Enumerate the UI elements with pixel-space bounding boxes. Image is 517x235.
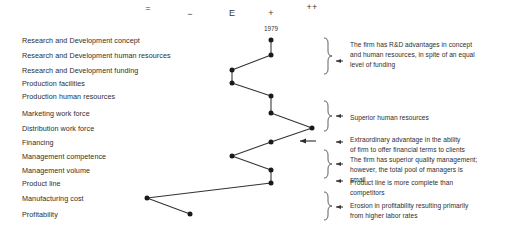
leader-arrowhead-profitability [336, 205, 341, 209]
annotation-rd: The firm has R&D advantages in concept a… [350, 40, 515, 70]
data-point-product-line [269, 181, 274, 186]
leader-arrowhead-rd [336, 59, 341, 63]
profile-polyline [147, 40, 312, 214]
data-point-marketing-work-force [269, 111, 274, 116]
data-point-management-volume [269, 168, 274, 173]
group-brace-human-resources [324, 101, 332, 131]
data-point-profitability [188, 212, 193, 217]
data-point-manufacturing-cost [145, 196, 150, 201]
leader-arrowhead-human-resources [336, 114, 341, 118]
data-point-rd-human-resources [269, 53, 274, 58]
data-point-rd-funding [230, 68, 235, 73]
data-point-rd-concept [269, 38, 274, 43]
annotation-profitability: Erosion in profitability resulting prima… [350, 201, 517, 221]
data-point-management-competence [230, 154, 235, 159]
leader-arrowhead-product-line [336, 179, 341, 183]
group-brace-rd [324, 38, 332, 74]
group-brace-management [324, 150, 332, 178]
data-point-distribution-work-force [310, 126, 315, 131]
annotation-human-resources: Superior human resources [350, 113, 515, 123]
data-point-production-facilities [230, 81, 235, 86]
leader-arrowhead-financing [336, 140, 341, 144]
leader-arrowhead-management [336, 162, 341, 166]
annotation-product-line: Product line is more complete than compe… [350, 178, 515, 198]
data-point-financing [269, 140, 274, 145]
group-brace-profitability [324, 192, 332, 220]
financing-callout-arrowhead [300, 139, 306, 144]
data-point-production-human-resources [269, 94, 274, 99]
annotation-financing: Extraordinary advantage in the ability o… [350, 135, 517, 155]
chart-figure: = − E + ++ 1979 Research and Development… [0, 0, 517, 235]
